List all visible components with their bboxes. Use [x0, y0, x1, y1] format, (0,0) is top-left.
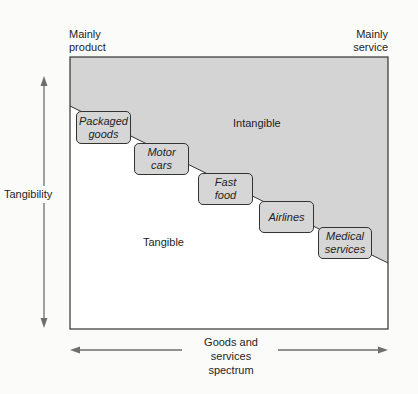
category-box-packaged-goods: Packaged goods [76, 111, 131, 144]
corner-label-line: Mainly [69, 28, 106, 41]
category-line: goods [89, 128, 119, 141]
axis-label-tangibility: Tangibility [4, 186, 52, 203]
corner-label-line: product [69, 41, 106, 54]
region-label-intangible: Intangible [233, 117, 281, 129]
axis-label-spectrum: Goods and services spectrum [196, 335, 266, 377]
category-line: Motor [147, 146, 175, 159]
category-line: cars [151, 159, 172, 172]
category-line: food [215, 189, 236, 202]
category-box-motor-cars: Motor cars [134, 143, 189, 175]
category-box-fast-food: Fast food [198, 173, 253, 205]
category-line: Airlines [268, 211, 304, 224]
category-line: Packaged [79, 115, 128, 128]
category-line: Fast [215, 176, 236, 189]
axis-label-line: Goods and [196, 335, 266, 349]
corner-label-mainly-service: Mainly service [353, 28, 388, 54]
corner-label-mainly-product: Mainly product [69, 28, 106, 54]
category-line: services [325, 243, 365, 256]
axis-label-line: services [196, 349, 266, 363]
category-box-airlines: Airlines [259, 201, 314, 233]
axis-label-line: spectrum [196, 363, 266, 377]
corner-label-line: Mainly [353, 28, 388, 41]
category-box-medical-services: Medical services [318, 227, 372, 259]
category-line: Medical [326, 230, 364, 243]
region-label-tangible: Tangible [143, 236, 184, 248]
corner-label-line: service [353, 41, 388, 54]
